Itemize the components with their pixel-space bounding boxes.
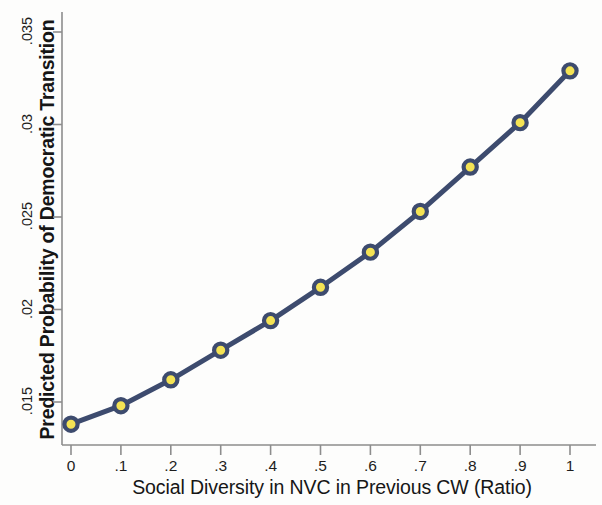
y-tick-label: .02 (19, 287, 35, 331)
data-point-marker (414, 205, 427, 218)
data-markers (64, 64, 576, 431)
data-point-marker (514, 116, 527, 129)
y-tick-label: .03 (19, 102, 35, 146)
data-point-marker (164, 373, 177, 386)
y-axis-ticks (53, 32, 62, 402)
x-tick-label: .1 (106, 457, 136, 475)
data-point-marker (464, 160, 477, 173)
plot-area (0, 0, 602, 505)
data-point-marker (264, 314, 277, 327)
x-tick-label: .2 (156, 457, 186, 475)
data-line (71, 71, 570, 424)
data-point-marker (64, 418, 77, 431)
x-axis-ticks (71, 445, 570, 455)
y-tick-label: .025 (19, 194, 35, 238)
y-tick-label: .035 (19, 9, 35, 53)
data-point-marker (314, 281, 327, 294)
x-tick-label: .8 (455, 457, 485, 475)
x-tick-label: 0 (56, 457, 86, 475)
data-point-marker (214, 344, 227, 357)
data-point-marker (563, 64, 576, 77)
x-tick-label: .4 (256, 457, 286, 475)
x-tick-label: 1 (555, 457, 585, 475)
x-tick-label: .9 (505, 457, 535, 475)
x-tick-label: .6 (355, 457, 385, 475)
data-point-marker (114, 399, 127, 412)
y-tick-label: .015 (19, 379, 35, 423)
chart-figure: Predicted Probability of Democratic Tran… (0, 0, 602, 505)
x-tick-label: .7 (405, 457, 435, 475)
x-tick-label: .3 (206, 457, 236, 475)
data-point-marker (364, 246, 377, 259)
x-tick-label: .5 (306, 457, 336, 475)
